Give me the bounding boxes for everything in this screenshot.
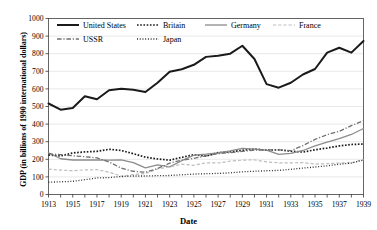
series-line (49, 41, 364, 110)
x-tick-label: 1935 (307, 200, 322, 209)
legend-label: Germany (231, 21, 261, 30)
x-tick-label: 1917 (89, 200, 104, 209)
series-line (49, 160, 364, 182)
x-tick-label: 1931 (259, 200, 274, 209)
y-tick-label: 800 (32, 49, 44, 58)
legend-label: USSR (83, 35, 104, 44)
x-tick-label: 1933 (283, 200, 298, 209)
x-tick-label: 1921 (138, 200, 153, 209)
legend-label: Japan (163, 35, 181, 44)
y-tick-label: 500 (32, 102, 44, 111)
x-axis-tick-labels: 1913191519171919192119231925192719291931… (41, 200, 371, 209)
x-tick-label: 1923 (162, 200, 177, 209)
y-tick-label: 100 (32, 173, 44, 182)
data-series-layer (49, 41, 364, 182)
x-tick-label: 1925 (186, 200, 201, 209)
y-tick-label: 200 (32, 155, 44, 164)
y-tick-label: 0 (40, 190, 44, 199)
x-tick-label: 1927 (211, 200, 226, 209)
legend-label: France (299, 21, 321, 30)
legend-label: United States (83, 21, 126, 30)
series-line (49, 129, 364, 168)
y-tick-label: 400 (32, 120, 44, 129)
chart-plot-area: 01002003004005006007008009001000 1913191… (0, 0, 377, 230)
chart-legend: United StatesBritainGermanyFranceUSSRJap… (57, 21, 321, 44)
y-tick-label: 900 (32, 32, 44, 41)
series-line (49, 159, 364, 176)
y-tick-label: 600 (32, 85, 44, 94)
y-tick-label: 1000 (28, 14, 43, 23)
y-axis-tick-labels: 01002003004005006007008009001000 (28, 14, 43, 199)
x-tick-label: 1939 (356, 200, 371, 209)
x-tick-label: 1937 (332, 200, 347, 209)
axis-ticks (46, 19, 364, 198)
x-tick-label: 1929 (235, 200, 250, 209)
x-tick-label: 1915 (65, 200, 80, 209)
legend-label: Britain (163, 21, 185, 30)
y-tick-label: 300 (32, 137, 44, 146)
y-tick-label: 700 (32, 67, 44, 76)
x-tick-label: 1913 (41, 200, 56, 209)
x-tick-label: 1919 (114, 200, 129, 209)
chart-figure: GDP (in billions of 1990 international d… (0, 0, 377, 230)
